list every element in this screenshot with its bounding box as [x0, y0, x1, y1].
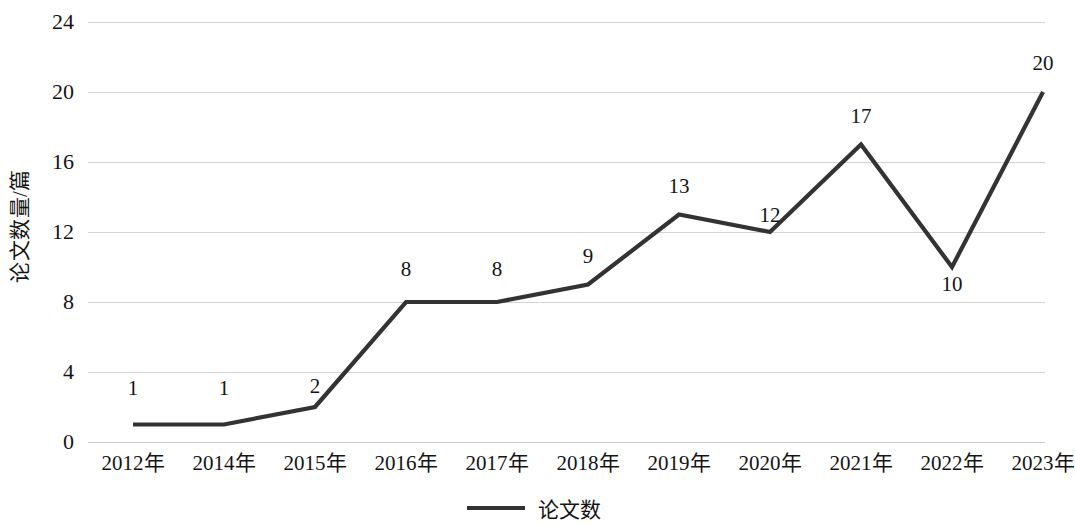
data-label: 8: [492, 259, 503, 280]
data-label: 17: [851, 106, 872, 127]
x-tick-label: 2023年: [1012, 449, 1075, 477]
y-tick-label: 12: [0, 221, 74, 243]
x-tick-label: 2021年: [830, 449, 893, 477]
y-tick-label: 8: [0, 291, 74, 313]
x-tick-label: 2014年: [193, 449, 256, 477]
x-tick-label: 2015年: [284, 449, 347, 477]
y-tick-label: 0: [0, 431, 74, 453]
data-label: 12: [760, 205, 781, 226]
data-label: 20: [1033, 53, 1054, 74]
data-label: 2: [310, 376, 321, 397]
legend-item[interactable]: 论文数: [467, 493, 601, 523]
series-line-论文数: [88, 22, 1045, 442]
data-label: 1: [128, 378, 139, 399]
data-label: 8: [401, 259, 412, 280]
chart-legend: 论文数: [0, 489, 1068, 526]
x-tick-label: 2018年: [557, 449, 620, 477]
y-tick-label: 20: [0, 81, 74, 103]
y-tick-label: 16: [0, 151, 74, 173]
data-label: 13: [669, 176, 690, 197]
data-label: 1: [219, 378, 230, 399]
x-tick-label: 2017年: [466, 449, 529, 477]
y-tick-label: 4: [0, 361, 74, 383]
legend-label: 论文数: [538, 493, 601, 523]
x-tick-label: 2020年: [739, 449, 802, 477]
plot-area: 1128891312171020: [88, 22, 1045, 442]
legend-line-icon: [467, 506, 525, 510]
x-tick-label: 2012年: [102, 449, 165, 477]
x-tick-label: 2016年: [375, 449, 438, 477]
x-tick-label: 2022年: [921, 449, 984, 477]
data-label: 10: [942, 274, 963, 295]
y-axis-tick-labels: 04812162024: [0, 22, 74, 442]
x-axis-tick-labels: 2012年2014年2015年2016年2017年2018年2019年2020年…: [88, 449, 1045, 483]
gridline: [88, 442, 1045, 443]
x-tick-label: 2019年: [648, 449, 711, 477]
data-label: 9: [583, 246, 594, 267]
y-tick-label: 24: [0, 11, 74, 33]
